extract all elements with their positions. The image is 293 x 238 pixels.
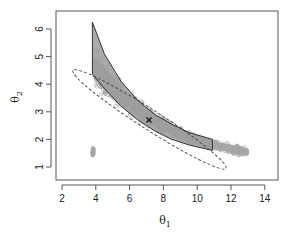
x-tick-label: 8 — [161, 193, 167, 204]
y-tick-label: 3 — [34, 109, 45, 115]
y-tick-label: 2 — [34, 136, 45, 142]
y-tick-label: 1 — [34, 164, 45, 170]
posterior-scatter-cloud — [91, 48, 249, 157]
x-tick-label: 14 — [259, 193, 271, 204]
y-axis-title: θ2 — [9, 91, 24, 103]
x-tick-label: 12 — [225, 193, 237, 204]
x-tick-label: 4 — [93, 193, 99, 204]
confidence-region-polygon — [92, 22, 212, 150]
x-axis: 2468101214 — [59, 185, 271, 204]
y-tick-label: 6 — [34, 26, 45, 32]
y-tick-label: 4 — [34, 81, 45, 87]
x-tick-label: 2 — [59, 193, 65, 204]
x-tick-label: 10 — [192, 193, 204, 204]
y-axis: 123456 — [34, 26, 51, 170]
x-axis-title: θ1 — [159, 214, 171, 229]
y-tick-label: 5 — [34, 53, 45, 59]
x-tick-label: 6 — [127, 193, 133, 204]
chart: 2468101214 123456 θ1 θ2 — [0, 0, 293, 238]
